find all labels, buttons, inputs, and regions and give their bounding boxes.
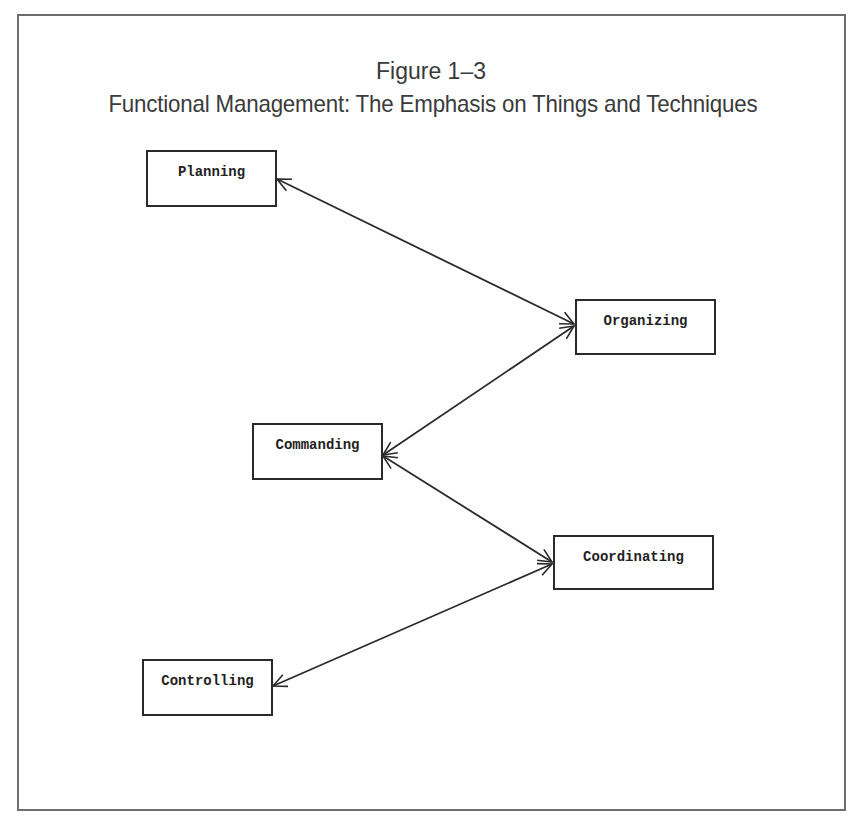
edge-planning-organizing	[277, 179, 574, 324]
node-controlling: Controlling	[142, 659, 273, 716]
edge-coordinating-controlling	[273, 564, 552, 686]
node-label-controlling: Controlling	[144, 673, 271, 689]
node-planning: Planning	[146, 150, 277, 207]
node-commanding: Commanding	[252, 423, 383, 480]
node-label-organizing: Organizing	[577, 313, 714, 329]
node-label-coordinating: Coordinating	[555, 549, 712, 565]
node-label-planning: Planning	[148, 164, 275, 180]
edge-organizing-commanding	[383, 326, 574, 455]
node-label-commanding: Commanding	[254, 437, 381, 453]
edges-layer	[0, 0, 862, 821]
node-coordinating: Coordinating	[553, 535, 714, 590]
edge-commanding-coordinating	[383, 456, 552, 562]
node-organizing: Organizing	[575, 299, 716, 355]
